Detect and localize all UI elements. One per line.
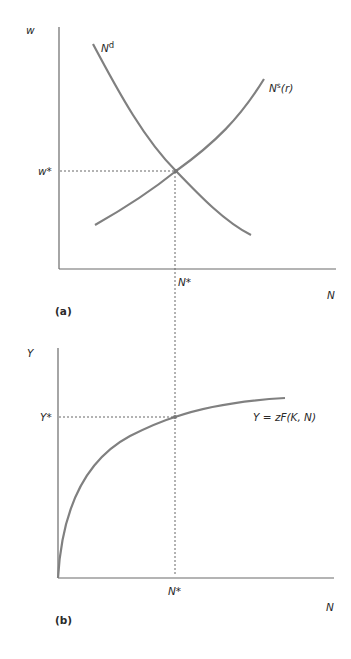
panel-a-x-axis-label: N	[327, 289, 335, 301]
panel-b-n-star-label: N*	[168, 585, 181, 597]
y-star-label: Y*	[40, 411, 52, 423]
panel-a-caption: (a)	[55, 305, 72, 317]
panel-a-n-star-label: N*	[178, 276, 191, 288]
labor-demand-curve	[93, 44, 251, 235]
equilibrium-point-b	[173, 415, 177, 419]
supply-label: Ns(r)	[269, 81, 293, 94]
w-star-label: w*	[38, 165, 52, 177]
labor-supply-curve	[95, 79, 264, 225]
figure-canvas: w Nd Ns(r) w* N* N (a) Y Y* Y = zF(K, N)…	[0, 0, 351, 659]
production-function-label: Y = zF(K, N)	[253, 411, 316, 423]
panel-b-caption: (b)	[55, 614, 72, 626]
demand-label: Nd	[101, 40, 114, 54]
panel-b: Y Y* Y = zF(K, N) N* N (b)	[27, 347, 334, 626]
panel-a-y-axis-label: w	[26, 24, 35, 36]
panel-b-x-axis-label: N	[326, 601, 334, 613]
panel-a: w Nd Ns(r) w* N* N (a)	[26, 24, 336, 317]
production-function-curve	[58, 398, 285, 578]
panel-b-y-axis-label: Y	[27, 347, 35, 359]
